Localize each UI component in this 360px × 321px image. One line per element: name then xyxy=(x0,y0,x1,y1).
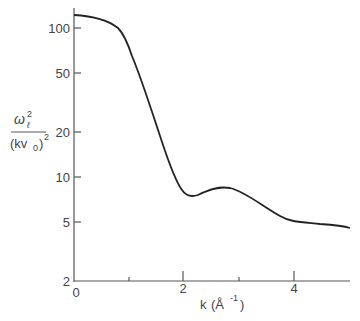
svg-text:2: 2 xyxy=(27,109,32,119)
y-tick-5: 5 xyxy=(63,215,70,230)
y-tick-2: 2 xyxy=(63,274,70,289)
y-tick-50: 50 xyxy=(56,66,70,81)
y-tick-10: 10 xyxy=(56,170,70,185)
svg-text:0: 0 xyxy=(33,143,38,153)
svg-text:2: 2 xyxy=(44,132,49,142)
svg-text:): ) xyxy=(39,136,43,151)
x-ticks xyxy=(129,271,294,281)
y-axis-label: ω ℓ 2 (kv 0 ) 2 xyxy=(10,109,49,153)
svg-text:(Å: (Å xyxy=(211,297,224,312)
x-tick-labels: 0 2 4 xyxy=(72,281,297,300)
y-ticks xyxy=(74,28,81,222)
x-tick-4: 4 xyxy=(290,281,297,296)
svg-text:k: k xyxy=(200,297,207,312)
x-tick-0: 0 xyxy=(72,285,79,300)
y-tick-100: 100 xyxy=(48,21,70,36)
y-tick-labels: 100 50 20 10 5 2 xyxy=(48,21,70,289)
svg-text:-1: -1 xyxy=(230,293,238,303)
chart: 100 50 20 10 5 2 0 2 4 k (Å -1 ) ω ℓ 2 (… xyxy=(0,0,360,321)
svg-text:ω: ω xyxy=(14,111,25,127)
svg-text:): ) xyxy=(240,297,244,312)
x-axis-label: k (Å -1 ) xyxy=(200,293,244,312)
svg-text:ℓ: ℓ xyxy=(26,120,30,130)
data-curve xyxy=(74,15,350,228)
svg-text:(kv: (kv xyxy=(10,136,28,151)
y-tick-20: 20 xyxy=(56,125,70,140)
x-tick-2: 2 xyxy=(179,281,186,296)
